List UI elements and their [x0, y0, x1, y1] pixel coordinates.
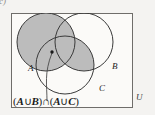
- set-label-c: C: [99, 84, 105, 93]
- universal-set-label: U: [136, 92, 143, 102]
- expr-set-b: B: [31, 95, 38, 107]
- expr-intersection: ∩: [42, 95, 50, 107]
- figure-canvas: c) A B C U (A∪B)∩(A∪C): [0, 0, 155, 115]
- leader-dot: [50, 50, 53, 53]
- set-label-a: A: [28, 64, 34, 73]
- expr-set-a-1: A: [16, 95, 23, 107]
- part-label: c): [0, 0, 6, 6]
- set-label-b: B: [112, 62, 118, 71]
- expr-close-paren-2: ): [75, 95, 78, 107]
- set-expression: (A∪B)∩(A∪C): [13, 95, 79, 108]
